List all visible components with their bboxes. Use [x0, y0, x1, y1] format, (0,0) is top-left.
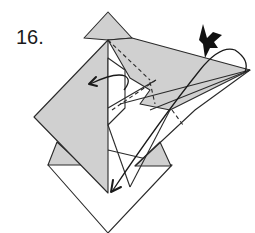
bottom-right-gray-flap [135, 142, 171, 166]
dashed-crease-lower [172, 110, 183, 125]
inner-white-region [108, 58, 125, 125]
top-point-flap [84, 12, 132, 40]
origami-diagram [0, 0, 255, 233]
